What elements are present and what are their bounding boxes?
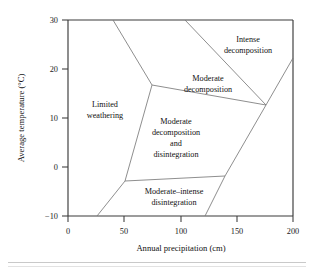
weathering-climate-figure: 30 20 10 0 −10 0 50 100 150 200 Annual p… bbox=[0, 0, 314, 278]
x-tick-label-150: 150 bbox=[231, 227, 243, 236]
region-label-moderate-intense-disintegration: Moderate–intense disintegration bbox=[145, 187, 204, 207]
boundary-disintegration-to-axis bbox=[205, 176, 225, 216]
region-label-moderate-decomposition: Moderate decomposition bbox=[184, 74, 232, 94]
y-tick-label-0: 0 bbox=[54, 163, 58, 172]
region-label-limited-weathering-line-1: Limited bbox=[92, 100, 118, 109]
region-label-moderate-decomposition-line-2: decomposition bbox=[184, 85, 232, 94]
y-tick-label-10: 10 bbox=[50, 114, 58, 123]
boundary-limited-weathering-lower bbox=[125, 85, 152, 181]
weathering-chart-svg: 30 20 10 0 −10 0 50 100 150 200 Annual p… bbox=[0, 0, 314, 278]
region-label-intense-decomposition-line-1: Intense bbox=[236, 35, 260, 44]
region-label-limited-weathering-line-2: weathering bbox=[87, 111, 123, 120]
boundary-limited-weathering-upper bbox=[113, 20, 152, 85]
y-axis-ticks bbox=[62, 20, 68, 216]
region-label-mid-line-1: Moderate–intense bbox=[145, 187, 204, 196]
region-label-mdd-line-1: Moderate bbox=[160, 117, 192, 126]
y-tick-label-minus10: −10 bbox=[45, 212, 58, 221]
region-label-mid-line-2: disintegration bbox=[151, 198, 196, 207]
x-axis-title: Annual precipitation (cm) bbox=[136, 243, 225, 253]
region-label-limited-weathering: Limited weathering bbox=[87, 100, 123, 120]
boundary-limited-weathering-to-axis bbox=[97, 181, 125, 216]
region-label-moderate-decomposition-and-disintegration: Moderate decomposition and disintegratio… bbox=[152, 117, 200, 159]
region-label-intense-decomposition-line-2: decomposition bbox=[224, 46, 272, 55]
region-label-moderate-decomposition-line-1: Moderate bbox=[192, 74, 224, 83]
x-tick-label-0: 0 bbox=[66, 227, 70, 236]
x-axis-ticks bbox=[68, 216, 293, 222]
region-label-mdd-line-4: disintegration bbox=[153, 150, 198, 159]
x-tick-label-100: 100 bbox=[175, 227, 187, 236]
y-tick-label-20: 20 bbox=[50, 65, 58, 74]
region-label-mdd-line-2: decomposition bbox=[152, 128, 200, 137]
boundary-moderate-intense-disintegration-upper bbox=[125, 176, 225, 181]
region-label-intense-decomposition: Intense decomposition bbox=[224, 35, 272, 55]
region-label-mdd-line-3: and bbox=[170, 139, 182, 148]
caption-divider-bottom bbox=[8, 266, 306, 267]
y-axis-tick-labels: 30 20 10 0 −10 bbox=[45, 16, 58, 221]
x-tick-label-50: 50 bbox=[120, 227, 128, 236]
y-axis-title: Average temperature (°C) bbox=[16, 74, 26, 163]
caption-divider-top bbox=[8, 262, 306, 263]
y-tick-label-30: 30 bbox=[50, 16, 58, 25]
x-axis-tick-labels: 0 50 100 150 200 bbox=[66, 227, 299, 236]
boundary-intense-decomposition-right bbox=[266, 58, 293, 105]
x-tick-label-200: 200 bbox=[287, 227, 299, 236]
boundary-disintegration-right bbox=[225, 105, 266, 176]
